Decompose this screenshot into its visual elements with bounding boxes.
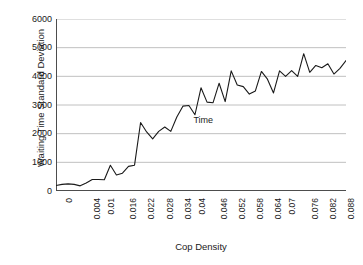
gridlines [56, 19, 346, 162]
x-axis-tick-labels: 00.0040.010.0160.0220.0280.0340.040.0460… [0, 196, 363, 242]
x-tick-label: 0.088 [347, 198, 356, 219]
x-axis-title: Cop Density [56, 241, 346, 252]
y-tick-label: 0 [14, 187, 52, 196]
x-tick-label: 0.07 [288, 198, 297, 215]
x-tick-label: 0.034 [184, 198, 193, 219]
y-tick-label: 3000 [14, 101, 52, 110]
y-tick-label: 4000 [14, 72, 52, 81]
x-tick-label: 0.052 [238, 198, 247, 219]
x-tick-label: 0.01 [107, 198, 116, 215]
y-tick-label: 1000 [14, 158, 52, 167]
x-tick-label: 0.046 [220, 198, 229, 219]
y-tick-label: 6000 [14, 15, 52, 24]
x-tick-label: 0.022 [148, 198, 157, 219]
x-tick-label: 0.076 [311, 198, 320, 219]
x-tick-label: 0.082 [329, 198, 338, 219]
x-tick-label: 0.016 [130, 198, 139, 219]
x-tick-label: 0.04 [197, 198, 206, 215]
x-tick-label: 0 [65, 198, 74, 203]
chart-figure: Waiting Time Standard Deviation 01000200… [0, 0, 363, 265]
x-tick-label: 0.058 [256, 198, 265, 219]
chart-canvas [56, 19, 346, 191]
plot-area [56, 19, 346, 191]
x-tick-label: 0.028 [166, 198, 175, 219]
x-tick-label: 0.064 [275, 198, 284, 219]
y-tick-label: 2000 [14, 129, 52, 138]
x-tick-label: 0.004 [93, 198, 102, 219]
y-tick-label: 5000 [14, 43, 52, 52]
series-label-time: Time [193, 115, 213, 125]
